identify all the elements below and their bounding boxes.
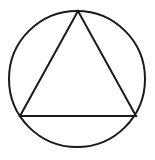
outer-circle: [9, 11, 145, 147]
figure-canvas: [0, 0, 155, 160]
line-drawing-svg: [0, 0, 155, 160]
inscribed-triangle: [20, 11, 136, 116]
